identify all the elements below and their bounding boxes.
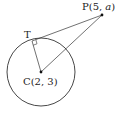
radius-ct bbox=[32, 41, 41, 72]
tangent-segment-tp bbox=[32, 15, 102, 41]
segment-cp bbox=[41, 15, 102, 72]
tangent-diagram: T C(2, 3) P(5, a) bbox=[0, 0, 119, 114]
label-p-suffix: ) bbox=[111, 1, 115, 12]
label-p-prefix: P(5, bbox=[82, 1, 105, 12]
label-t: T bbox=[24, 29, 31, 40]
center-point bbox=[40, 71, 43, 74]
label-p: P(5, a) bbox=[82, 1, 115, 12]
label-c: C(2, 3) bbox=[23, 76, 58, 87]
point-p bbox=[101, 14, 104, 17]
